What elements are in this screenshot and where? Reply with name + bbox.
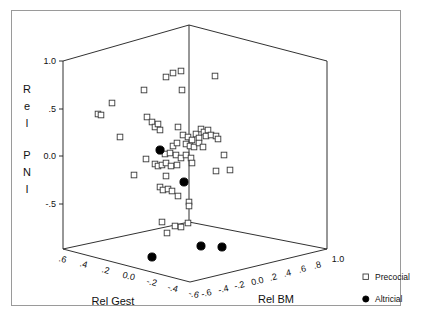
rel-pni-title-letter-0: R (23, 83, 31, 95)
data-point-precocial (200, 144, 206, 150)
rel-pni-title-letter-4: N (23, 166, 31, 178)
data-point-precocial (212, 73, 218, 79)
data-point-altricial (218, 243, 226, 251)
data-point-precocial (172, 223, 178, 229)
rel-pni-ticklabel-2: 0.0 (43, 151, 56, 161)
data-point-precocial (175, 193, 181, 199)
rel-pni-title-letter-2: l (26, 117, 28, 129)
plot-svg: 1.0 .5 0.0 -.5 R e l P N I .6 .4 .2 0.0 … (0, 0, 423, 324)
data-point-precocial (178, 68, 184, 74)
legend-marker-altricial-icon (363, 296, 369, 302)
data-point-precocial (163, 173, 169, 179)
data-point-precocial (109, 100, 115, 106)
data-point-precocial (174, 162, 180, 168)
rel-gest-axis-title: Rel Gest (92, 295, 135, 307)
data-point-precocial (213, 168, 219, 174)
data-point-precocial (179, 87, 185, 93)
rel-pni-title-letter-1: e (24, 100, 30, 112)
data-point-precocial (227, 167, 233, 173)
data-point-precocial (143, 156, 149, 162)
rel-bm-ticklabel-8: 1.0 (332, 254, 345, 264)
data-point-precocial (174, 140, 180, 146)
data-point-precocial (164, 230, 170, 236)
data-point-altricial (148, 253, 156, 261)
data-point-precocial (175, 124, 181, 130)
data-point-precocial (189, 160, 195, 166)
data-point-precocial (163, 74, 169, 80)
data-point-precocial (215, 136, 221, 142)
data-point-altricial (197, 242, 205, 250)
data-point-precocial (167, 150, 173, 156)
data-point-altricial (180, 178, 188, 186)
data-point-precocial (168, 163, 174, 169)
rel-bm-axis-title: Rel BM (258, 293, 294, 305)
data-point-precocial (117, 134, 123, 140)
data-point-precocial (159, 219, 165, 225)
data-point-precocial (221, 152, 227, 158)
data-point-precocial (185, 220, 191, 226)
rel-pni-ticklabel-0: 1.0 (43, 56, 56, 66)
data-point-altricial (156, 146, 164, 154)
legend-marker-precocial-icon (363, 274, 368, 279)
rel-pni-title-letter-3: P (23, 149, 30, 161)
legend-label-precocial: Precocial (375, 272, 410, 282)
data-point-precocial (98, 112, 104, 118)
data-point-precocial (186, 203, 192, 209)
data-point-precocial (157, 127, 163, 133)
data-point-precocial (155, 121, 161, 127)
data-point-precocial (189, 137, 195, 143)
rel-pni-title-letter-5: I (25, 183, 28, 195)
legend-label-altricial: Altricial (375, 294, 403, 304)
data-point-precocial (170, 70, 176, 76)
data-point-precocial (131, 172, 137, 178)
rel-pni-ticklabel-3: -.5 (45, 199, 56, 209)
data-point-precocial (169, 188, 175, 194)
data-point-precocial (141, 87, 147, 93)
data-point-precocial (178, 224, 184, 230)
scatter-plot-figure: 1.0 .5 0.0 -.5 R e l P N I .6 .4 .2 0.0 … (0, 0, 423, 324)
rel-pni-ticklabel-1: .5 (48, 104, 56, 114)
